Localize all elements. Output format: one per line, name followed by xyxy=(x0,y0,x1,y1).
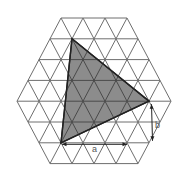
grid-diagonal-line xyxy=(127,18,138,39)
grid-diagonal-line xyxy=(149,101,160,122)
grid-diagonal-line xyxy=(116,18,127,39)
grid-diagonal-line xyxy=(39,101,50,122)
grid-diagonal-line xyxy=(105,122,116,143)
grid-diagonal-line xyxy=(116,143,127,164)
grid-diagonal-line xyxy=(138,122,149,143)
grid-diagonal-line xyxy=(83,18,94,39)
grid-diagonal-line xyxy=(127,39,138,60)
grid-diagonal-line xyxy=(39,143,50,164)
grid-diagonal-line xyxy=(61,18,72,39)
dimension-arrow-b-head-start xyxy=(150,104,154,109)
dimension-label-b: b xyxy=(155,120,160,130)
grid-diagonal-line xyxy=(39,60,50,81)
grid-diagonal-line xyxy=(50,39,61,60)
grid-diagonal-line xyxy=(17,80,28,101)
grid-diagonal-line xyxy=(149,80,160,101)
grid-diagonal-line xyxy=(39,39,50,60)
grid-diagonal-line xyxy=(138,143,149,164)
grid-diagonal-line xyxy=(50,122,61,143)
grid-diagonal-line xyxy=(94,18,105,39)
grid-diagonal-line xyxy=(39,122,50,143)
hex-lattice-diagram: a b xyxy=(0,0,185,178)
grid-diagonal-line xyxy=(50,101,61,122)
grid-diagonal-line xyxy=(116,122,127,143)
grid-diagonal-line xyxy=(50,18,61,39)
grid-diagonal-line xyxy=(127,60,138,81)
grid-diagonal-line xyxy=(94,39,105,60)
grid-diagonal-line xyxy=(160,80,171,101)
grid-diagonal-line xyxy=(72,18,83,39)
grid-diagonal-line xyxy=(149,60,160,81)
grid-diagonal-line xyxy=(28,60,39,81)
grid-diagonal-line xyxy=(116,39,127,60)
grid-diagonal-line xyxy=(138,39,149,60)
grid-diagonal-line xyxy=(127,122,138,143)
grid-diagonal-line xyxy=(105,143,116,164)
dimension-arrow-b-shaft xyxy=(152,104,153,141)
grid-diagonal-line xyxy=(50,60,61,81)
grid-diagonal-line xyxy=(17,101,28,122)
grid-diagonal-line xyxy=(50,80,61,101)
grid-diagonal-line xyxy=(39,80,50,101)
grid-diagonal-line xyxy=(138,60,149,81)
grid-diagonal-line xyxy=(28,80,39,101)
grid-diagonal-line xyxy=(160,101,171,122)
grid-diagonal-line xyxy=(72,143,83,164)
grid-diagonal-line xyxy=(50,143,61,164)
grid-diagonal-line xyxy=(28,101,39,122)
grid-diagonal-line xyxy=(105,18,116,39)
grid-diagonal-line xyxy=(28,122,39,143)
dimension-label-a: a xyxy=(92,144,97,154)
grid-diagonal-line xyxy=(105,39,116,60)
grid-diagonal-line xyxy=(127,143,138,164)
